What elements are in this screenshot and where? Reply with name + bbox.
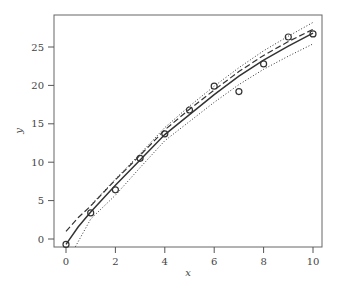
x-tick-label: 4 [162, 256, 168, 267]
y-tick-label: 15 [31, 118, 44, 129]
fit-solid-line [66, 33, 313, 244]
x-tick-label: 2 [112, 256, 118, 267]
y-tick-label: 25 [31, 42, 44, 53]
y-tick-label: 0 [38, 234, 44, 245]
data-points [63, 31, 316, 247]
lower-band-dotted-line [75, 44, 313, 247]
scatter-chart: 0510152025 0246810 x y [0, 0, 340, 290]
upper-band-dotted-line [91, 22, 313, 205]
data-point-marker [261, 61, 267, 67]
x-axis: 0246810 [63, 247, 320, 267]
x-tick-label: 10 [307, 256, 320, 267]
x-tick-label: 6 [211, 256, 217, 267]
y-tick-label: 10 [31, 157, 44, 168]
y-tick-label: 20 [31, 80, 44, 91]
x-axis-label: x [185, 267, 191, 278]
series-layer [66, 22, 313, 246]
y-axis: 0510152025 [31, 42, 54, 245]
x-tick-label: 8 [260, 256, 266, 267]
data-point-marker [285, 34, 291, 40]
x-tick-label: 0 [63, 256, 69, 267]
y-axis-label: y [13, 128, 24, 135]
fit-dashed-line [66, 29, 313, 231]
y-tick-label: 5 [38, 195, 44, 206]
data-point-marker [112, 187, 118, 193]
data-point-marker [236, 89, 242, 95]
